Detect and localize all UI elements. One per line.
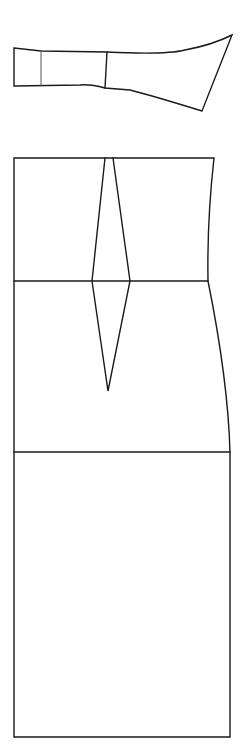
- top-piece-inner-line-mid: [105, 52, 107, 88]
- top-pattern-piece: [14, 35, 232, 111]
- main-piece-outline: [14, 158, 230, 737]
- pattern-diagram: [0, 0, 242, 751]
- top-piece-outline: [14, 35, 232, 111]
- main-pattern-piece: [14, 158, 230, 737]
- diamond-dart: [92, 158, 130, 391]
